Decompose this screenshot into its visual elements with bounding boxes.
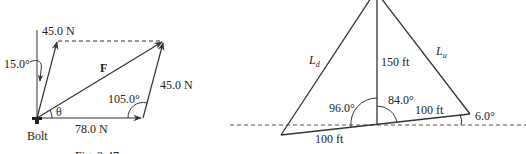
- diagram-canvas: 45.0 N 15.0° F 45.0 N 105.0° θ 78.0 N Bo…: [0, 0, 526, 154]
- label-angle-left: 96.0°: [329, 101, 355, 115]
- bolt-icon: [32, 117, 42, 124]
- label-base-right: 100 ft: [415, 103, 444, 117]
- label-slope-angle: 6.0°: [475, 109, 495, 123]
- label-bottom-force: 78.0 N: [75, 122, 108, 136]
- figure-caption-left: Fig. 3-47: [75, 149, 119, 154]
- label-right-force: 45.0 N: [160, 78, 193, 92]
- label-obtuse-angle: 105.0°: [108, 92, 140, 106]
- angle-arc-84: [377, 106, 397, 123]
- angle-arc-6: [460, 115, 462, 125]
- force-parallelogram-figure: 45.0 N 15.0° F 45.0 N 105.0° θ 78.0 N Bo…: [4, 24, 193, 154]
- label-top-force: 45.0 N: [42, 24, 75, 38]
- angle-arc-theta: [50, 110, 52, 118]
- label-left-side: Ld: [308, 53, 321, 69]
- label-right-side: Lu: [435, 44, 447, 60]
- label-base-left: 100 ft: [315, 132, 344, 146]
- angle-arc-15: [30, 60, 41, 81]
- slope-triangle-figure: Ld Lu 150 ft 96.0° 84.0° 100 ft 6.0° 100…: [230, 0, 526, 146]
- side-ld: [281, 0, 371, 135]
- label-theta: θ: [56, 105, 62, 119]
- label-angle-vertical: 15.0°: [4, 57, 30, 71]
- label-bolt: Bolt: [27, 129, 48, 143]
- label-angle-right: 84.0°: [388, 93, 414, 107]
- label-resultant: F: [100, 61, 107, 75]
- label-height: 150 ft: [381, 55, 410, 69]
